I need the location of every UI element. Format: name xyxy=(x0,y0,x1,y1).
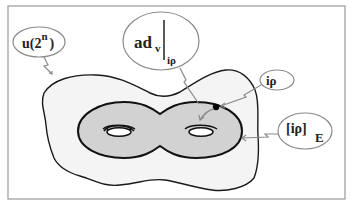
irhoE-label: [iρ] xyxy=(286,121,307,136)
right-hole-ellipse xyxy=(189,128,213,136)
diagram-canvas: u(2n) ad v iρ iρ [iρ] E xyxy=(0,0,352,213)
irho-label: iρ xyxy=(266,73,277,88)
adv-subscript-irho: iρ xyxy=(167,54,176,66)
adv-label: ad xyxy=(134,33,153,52)
adv-subscript-v: v xyxy=(155,42,161,54)
left-hole-ellipse xyxy=(107,128,131,136)
irhoE-subscript: E xyxy=(315,130,324,145)
